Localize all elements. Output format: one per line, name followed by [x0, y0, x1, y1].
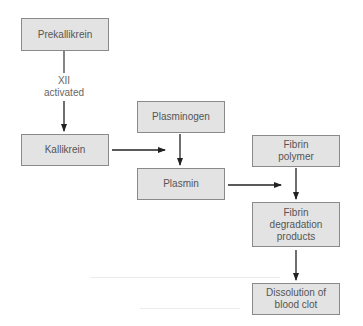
edge-label-xii-activated: XII activated — [39, 75, 89, 99]
node-prekallikrein: Prekallikrein — [21, 18, 109, 51]
scan-artifact — [90, 277, 280, 278]
scan-artifact — [140, 308, 240, 309]
node-fibrin-degradation-products: Fibrin degradation products — [252, 202, 340, 247]
node-dissolution-of-blood-clot: Dissolution of blood clot — [252, 283, 340, 315]
node-fibrin-polymer: Fibrin polymer — [252, 135, 340, 167]
node-kallikrein: Kallikrein — [21, 134, 109, 166]
node-plasminogen: Plasminogen — [137, 101, 225, 133]
node-plasmin: Plasmin — [137, 168, 225, 200]
